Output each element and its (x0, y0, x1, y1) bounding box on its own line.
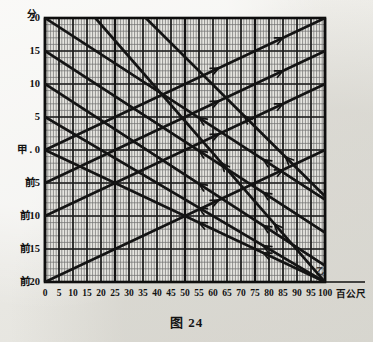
x-axis-unit-label: 百公尺 (336, 290, 366, 300)
y-tick--10: 前10 (0, 211, 40, 222)
y-tick-15: 15 (0, 46, 40, 57)
figure-caption: 图 24 (0, 312, 373, 331)
y-tick-5: 5 (0, 112, 40, 123)
y-tick-10: 10 (0, 79, 40, 90)
y-tick--20: 前20 (0, 277, 40, 288)
y-tick-0: 甲 . 0 (0, 145, 40, 156)
y-tick-20: 20 (0, 13, 40, 24)
y-tick--15: 前15 (0, 244, 40, 255)
y-tick--5: 前5 (0, 178, 40, 189)
station-label-yi: 乙 (316, 268, 324, 276)
figure-24-container: 分 2015105甲 . 0前5前10前15前20 05101520253035… (0, 0, 373, 342)
x-tick-100: 100 (315, 289, 335, 299)
